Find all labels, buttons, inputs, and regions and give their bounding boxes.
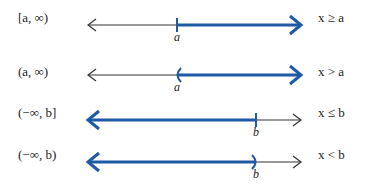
endpoint-label: b (253, 125, 259, 140)
inequality: x ≥ a (318, 10, 344, 26)
inequality: x < b (318, 147, 345, 163)
row-open-left: (−∞, b) b x < b (0, 139, 378, 193)
endpoint-label: b (253, 167, 259, 182)
inequality: x > a (318, 64, 344, 80)
row-open-right: (a, ∞) a x > a (0, 50, 378, 98)
endpoint-label: a (174, 30, 180, 45)
inequality: x ≤ b (318, 105, 345, 121)
row-closed-right: [a, ∞) a x ≥ a (0, 0, 378, 48)
endpoint-label: a (174, 80, 180, 95)
row-closed-left: (−∞, b] b x ≤ b (0, 97, 378, 145)
